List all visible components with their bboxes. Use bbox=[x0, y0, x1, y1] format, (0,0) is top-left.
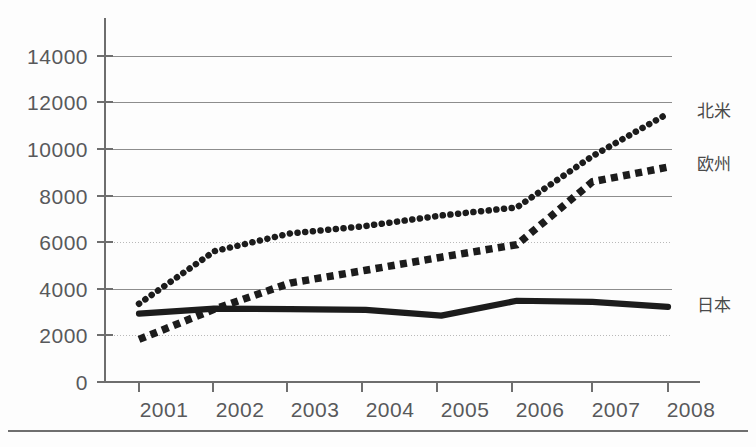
gridlines bbox=[105, 56, 672, 335]
line-chart: 14000 12000 10000 8000 6000 4000 2000 0 … bbox=[0, 0, 756, 447]
x-tick-labels: 2001 2002 2003 2004 2005 2006 2007 2008 bbox=[140, 398, 716, 421]
y-tick-labels: 14000 12000 10000 8000 6000 4000 2000 0 bbox=[27, 45, 88, 394]
x-axis-label-2004: 2004 bbox=[366, 398, 415, 421]
y-axis-label-14000: 14000 bbox=[27, 45, 88, 68]
chart-canvas: 14000 12000 10000 8000 6000 4000 2000 0 … bbox=[0, 0, 756, 447]
series-label-nihon: 日本 bbox=[697, 295, 731, 315]
y-axis-label-6000: 6000 bbox=[39, 231, 88, 254]
x-axis-label-2007: 2007 bbox=[592, 398, 641, 421]
x-axis-label-2003: 2003 bbox=[291, 398, 340, 421]
y-axis-label-10000: 10000 bbox=[27, 138, 88, 161]
x-axis-label-2001: 2001 bbox=[140, 398, 189, 421]
y-axis-label-2000: 2000 bbox=[39, 324, 88, 347]
x-axis-label-2002: 2002 bbox=[216, 398, 265, 421]
axes bbox=[100, 18, 700, 383]
x-axis-label-2005: 2005 bbox=[441, 398, 490, 421]
x-axis-label-2006: 2006 bbox=[516, 398, 565, 421]
series-line-nihon bbox=[139, 301, 668, 316]
chart-page: 14000 12000 10000 8000 6000 4000 2000 0 … bbox=[0, 0, 756, 447]
y-axis-label-8000: 8000 bbox=[39, 185, 88, 208]
series-lines bbox=[139, 114, 668, 340]
series-line-hokubei bbox=[139, 114, 668, 304]
series-label-hokubei: 北米 bbox=[697, 101, 731, 121]
y-axis-label-0: 0 bbox=[76, 371, 88, 394]
x-tick-marks bbox=[139, 382, 668, 392]
x-axis-label-2008: 2008 bbox=[667, 398, 716, 421]
series-labels: 北米 欧州 日本 bbox=[697, 101, 731, 315]
y-axis-label-4000: 4000 bbox=[39, 278, 88, 301]
y-axis-label-12000: 12000 bbox=[27, 91, 88, 114]
series-label-oushuu: 欧州 bbox=[697, 154, 731, 174]
